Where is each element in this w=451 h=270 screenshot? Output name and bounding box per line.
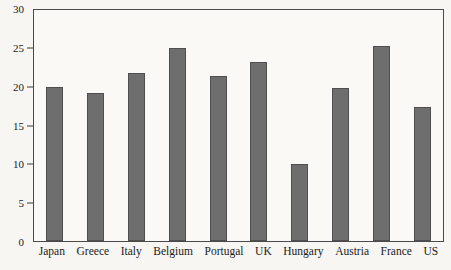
bar	[332, 88, 349, 241]
y-axis-tick-label: 20	[13, 81, 24, 93]
x-axis-tick-label: France	[381, 245, 412, 257]
bar	[291, 164, 308, 241]
bar	[46, 87, 63, 241]
y-axis-tick-label: 25	[13, 42, 24, 54]
x-axis-tick-label: US	[423, 245, 438, 257]
bar	[87, 93, 104, 241]
bar	[250, 62, 267, 241]
y-axis-tick-label: 0	[19, 236, 25, 248]
x-axis-tick-label: Portugal	[205, 245, 244, 257]
plot-area	[33, 9, 444, 242]
bar	[210, 76, 227, 241]
y-axis: 051015202530	[0, 9, 33, 242]
bar	[169, 48, 186, 241]
bar	[373, 46, 390, 241]
x-axis-tick-label: Japan	[39, 245, 65, 257]
x-axis-tick-label: Austria	[335, 245, 369, 257]
x-axis-tick-label: UK	[255, 245, 272, 257]
bar-chart: MONETARY POLICY ted the economy in the t…	[0, 0, 451, 270]
x-axis-tick-label: Greece	[77, 245, 110, 257]
x-axis-tick-label: Hungary	[283, 245, 323, 257]
y-axis-tick-label: 5	[19, 197, 25, 209]
y-axis-tick-label: 10	[13, 158, 24, 170]
x-axis-tick-label: Italy	[121, 245, 142, 257]
y-axis-tick-label: 30	[13, 3, 24, 15]
y-axis-tick-label: 15	[13, 120, 24, 132]
x-axis: JapanGreeceItalyBelgiumPortugalUKHungary…	[33, 245, 444, 265]
bar	[128, 73, 145, 241]
bar	[414, 107, 431, 241]
bars-container	[34, 10, 443, 241]
x-axis-tick-label: Belgium	[153, 245, 193, 257]
